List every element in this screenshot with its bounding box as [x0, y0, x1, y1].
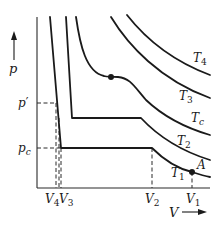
- y-axis-label: p: [9, 61, 18, 76]
- x-tick-v3: V3: [59, 192, 74, 208]
- x-axis-label-group: V: [169, 205, 207, 220]
- x-tick-v2: V2: [145, 192, 159, 208]
- label-tc: Tc: [191, 111, 204, 127]
- point-a-marker: [189, 169, 195, 175]
- y-tick-p-prime: p′: [18, 96, 29, 110]
- point-a-label: A: [196, 158, 206, 172]
- x-tick-v4: V4: [45, 192, 60, 208]
- y-axis-label-group: p: [9, 31, 18, 76]
- right-arrowhead-icon: [198, 209, 207, 215]
- x-tick-v1: V1: [186, 192, 200, 208]
- label-t2: T2: [177, 134, 191, 150]
- x-axis-label: V: [169, 205, 180, 220]
- label-t4: T4: [193, 51, 207, 67]
- critical-point-marker: [108, 74, 114, 80]
- y-tick-labels: p′ pc: [18, 96, 31, 157]
- up-arrowhead-icon: [11, 31, 17, 40]
- y-tick-pc: pc: [18, 141, 31, 157]
- isotherm-t4: [127, 15, 210, 75]
- pv-diagram: p V p′ pc: [0, 0, 220, 228]
- label-t3: T3: [179, 89, 193, 105]
